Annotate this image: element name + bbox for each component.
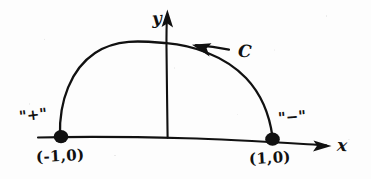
figure-canvas: y x C "+" "−" (-1,0) (1,0) (0, 0, 371, 179)
x-axis-line (38, 137, 326, 146)
right-endpoint-coord-label: (1,0) (249, 150, 292, 167)
right-endpoint-dot-icon (265, 133, 280, 146)
curve-label-c: C (238, 43, 252, 61)
left-endpoint-sign-label: "+" (18, 106, 48, 124)
x-axis-arrowhead-icon (313, 141, 332, 152)
left-endpoint-coord-label: (-1,0) (36, 148, 85, 166)
x-axis-label: x (337, 137, 348, 155)
y-axis-label: y (152, 10, 163, 27)
curve-direction-arrowhead-icon (192, 43, 212, 56)
left-endpoint-dot-icon (54, 130, 69, 143)
y-axis-line (166, 16, 167, 138)
right-endpoint-sign-label: "−" (277, 109, 306, 126)
